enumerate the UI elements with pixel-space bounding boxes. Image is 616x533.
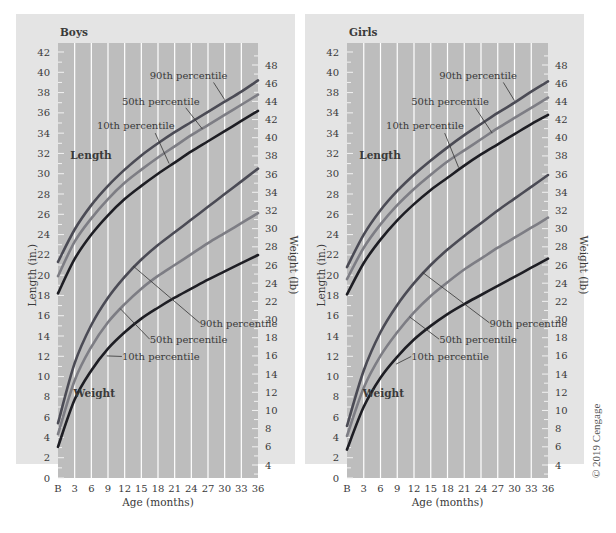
right-axis-tick-label: 42: [555, 114, 568, 125]
x-axis-tick-label: 6: [377, 483, 383, 494]
right-axis-tick-label: 8: [265, 423, 271, 434]
right-axis-tick-label: 4: [265, 460, 271, 471]
right-axis-tick-label: 10: [265, 405, 278, 416]
left-axis-tick-label: 6: [333, 412, 339, 423]
left-axis-tick-label: 42: [37, 47, 50, 58]
right-axis-tick-label: 30: [265, 223, 278, 234]
right-axis-tick-label: 30: [555, 223, 568, 234]
left-axis-tick-label: 30: [37, 168, 50, 179]
x-axis-tick-label: B: [343, 483, 350, 494]
left-axis-tick-label: 24: [326, 229, 339, 240]
left-axis-tick-label: 8: [44, 391, 50, 402]
right-axis-tick-label: 18: [265, 332, 278, 343]
left-axis-tick-label: 12: [326, 351, 339, 362]
right-axis-tick-label: 34: [555, 187, 568, 198]
length-label: Length: [70, 149, 112, 161]
right-axis-tick-label: 16: [265, 350, 278, 361]
left-axis-tick-label: 26: [326, 209, 339, 220]
right-axis-tick-label: 16: [555, 350, 568, 361]
right-axis-tick-label: 4: [555, 460, 561, 471]
weight-label: Weight: [73, 387, 116, 399]
x-axis-tick-label: 36: [542, 483, 555, 494]
right-axis-tick-label: 18: [555, 332, 568, 343]
right-axis-tick-label: 38: [555, 150, 568, 161]
right-axis-tick-label: 8: [555, 423, 561, 434]
left-axis-tick-label: 22: [37, 249, 50, 260]
x-axis-tick-label: 27: [202, 483, 215, 494]
left-axis-tick-label: 34: [326, 128, 339, 139]
annotation-label: 50th percentile: [411, 96, 489, 107]
annotation-label: 10th percentile: [122, 351, 200, 362]
x-axis-title: Age (months): [121, 496, 193, 508]
x-axis-tick-label: 21: [168, 483, 181, 494]
right-axis-tick-label: 40: [555, 132, 568, 143]
right-axis-tick-label: 42: [265, 114, 278, 125]
chart-title: Boys: [60, 26, 88, 38]
left-axis-tick-label: 40: [37, 67, 50, 78]
x-axis-tick-label: 24: [475, 483, 488, 494]
x-axis-tick-label: 24: [185, 483, 198, 494]
annotation-label: 50th percentile: [439, 334, 517, 345]
left-axis-tick-label: 4: [44, 432, 50, 443]
left-axis-tick-label: 16: [37, 310, 50, 321]
right-axis-tick-label: 22: [265, 296, 278, 307]
x-axis-tick-label: 15: [424, 483, 437, 494]
right-axis-tick-label: 32: [265, 205, 278, 216]
right-axis-tick-label: 46: [555, 78, 568, 89]
x-axis-tick-label: 6: [88, 483, 94, 494]
left-axis-tick-label: 18: [326, 290, 339, 301]
left-axis-tick-label: 24: [37, 229, 50, 240]
left-axis-tick-label: 18: [37, 290, 50, 301]
right-axis-tick-label: 24: [555, 278, 568, 289]
right-axis-tick-label: 22: [555, 296, 568, 307]
left-axis-tick-label: 20: [326, 270, 339, 281]
left-axis-tick-label: 10: [326, 371, 339, 382]
left-axis-tick-label: 0: [44, 473, 50, 484]
left-axis-tick-label: 8: [333, 391, 339, 402]
weight-label: Weight: [362, 387, 405, 399]
length-label: Length: [359, 149, 401, 161]
right-axis-tick-label: 10: [555, 405, 568, 416]
x-axis-tick-label: 33: [235, 483, 248, 494]
x-axis-tick-label: 21: [458, 483, 471, 494]
right-axis-tick-label: 14: [555, 369, 568, 380]
x-axis-tick-label: 9: [394, 483, 400, 494]
right-axis-tick-label: 12: [555, 387, 568, 398]
x-axis-tick-label: 3: [361, 483, 367, 494]
left-axis-tick-label: 30: [326, 168, 339, 179]
chart-title: Girls: [349, 26, 377, 38]
right-axis-title: Weight (lb): [578, 236, 590, 295]
left-axis-tick-label: 4: [333, 432, 339, 443]
annotation-label: 90th percentile: [150, 70, 228, 81]
right-axis-tick-label: 14: [265, 369, 278, 380]
annotation-label: 10th percentile: [386, 120, 464, 131]
x-axis-tick-label: 15: [135, 483, 148, 494]
annotation-label: 90th percentile: [489, 318, 567, 329]
boys-chart: 0246810121416182022242628303234363840424…: [26, 26, 300, 508]
right-axis-tick-label: 48: [265, 60, 278, 71]
left-axis-tick-label: 22: [326, 249, 339, 260]
left-axis-tick-label: 26: [37, 209, 50, 220]
left-axis-tick-label: 28: [37, 189, 50, 200]
left-axis-tick-label: 20: [37, 270, 50, 281]
left-axis-tick-label: 38: [37, 87, 50, 98]
right-axis-tick-label: 36: [265, 169, 278, 180]
right-axis-tick-label: 6: [265, 441, 271, 452]
x-axis-tick-label: 30: [508, 483, 521, 494]
left-axis-tick-label: 16: [326, 310, 339, 321]
leader-line: [107, 356, 122, 357]
right-axis-tick-label: 32: [555, 205, 568, 216]
right-axis-tick-label: 6: [555, 441, 561, 452]
left-axis-tick-label: 12: [37, 351, 50, 362]
x-axis-tick-label: 18: [441, 483, 454, 494]
x-axis-title: Age (months): [411, 496, 483, 508]
right-axis-tick-label: 36: [555, 169, 568, 180]
left-axis-tick-label: 32: [326, 148, 339, 159]
left-axis-tick-label: 34: [37, 128, 50, 139]
right-axis-tick-label: 26: [555, 260, 568, 271]
left-axis-tick-label: 28: [326, 189, 339, 200]
x-axis-tick-label: 36: [252, 483, 265, 494]
girls-chart: 0246810121416182022242628303234343840424…: [315, 26, 590, 508]
annotation-label: 50th percentile: [150, 334, 228, 345]
annotation-label: 50th percentile: [122, 96, 200, 107]
